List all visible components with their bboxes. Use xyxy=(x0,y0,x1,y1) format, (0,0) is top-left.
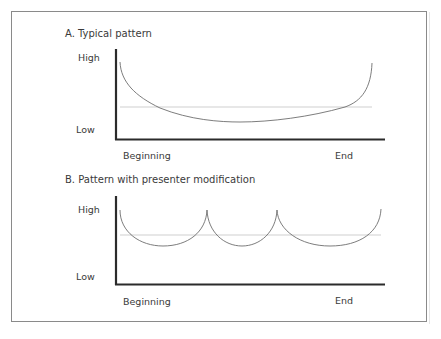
panel-a-attention-curve xyxy=(120,62,372,122)
diagram-canvas xyxy=(0,0,441,339)
panel-b-attention-curve xyxy=(120,209,381,246)
panel-b-plot xyxy=(115,196,385,285)
panel-a-plot xyxy=(115,49,385,140)
